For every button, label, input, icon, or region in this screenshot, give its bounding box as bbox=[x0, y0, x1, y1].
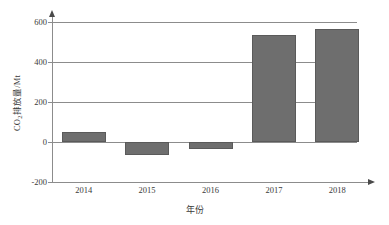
y-tick-label-400: 400 bbox=[22, 57, 50, 67]
x-tick-label-2017: 2017 bbox=[265, 185, 282, 195]
bar-2014[interactable] bbox=[62, 132, 106, 142]
bar-2018[interactable] bbox=[315, 29, 359, 142]
y-axis-line bbox=[52, 16, 53, 182]
gridline--200 bbox=[52, 182, 369, 183]
x-tick-label-2015: 2015 bbox=[139, 185, 156, 195]
gridline-200 bbox=[52, 102, 357, 103]
y-axis-label-suffix: 排放量/Mt bbox=[12, 74, 22, 114]
plot-area bbox=[52, 22, 369, 182]
arrow-up-icon bbox=[49, 10, 55, 17]
y-tick-label--200: -200 bbox=[22, 177, 50, 187]
x-tick-label-2016: 2016 bbox=[202, 185, 219, 195]
y-tick-label-600: 600 bbox=[22, 17, 50, 27]
x-tick-label-2018: 2018 bbox=[329, 185, 346, 195]
y-axis-tick-labels: 6004002000-200 bbox=[22, 0, 50, 225]
y-tickmark--200 bbox=[48, 182, 52, 183]
co2-emissions-bar-chart: CO2排放量/Mt 6004002000-200 201420152016201… bbox=[0, 0, 389, 225]
bar-2016[interactable] bbox=[189, 142, 233, 149]
x-axis-label: 年份 bbox=[0, 203, 389, 216]
y-axis-label-prefix: CO bbox=[12, 118, 22, 130]
bar-2017[interactable] bbox=[252, 35, 296, 142]
bar-2015[interactable] bbox=[125, 142, 169, 155]
x-tick-label-2014: 2014 bbox=[75, 185, 92, 195]
arrow-right-icon bbox=[368, 179, 375, 185]
gridline-600 bbox=[52, 22, 357, 23]
gridline-400 bbox=[52, 62, 357, 63]
y-tick-label-0: 0 bbox=[22, 137, 50, 147]
y-tick-label-200: 200 bbox=[22, 97, 50, 107]
